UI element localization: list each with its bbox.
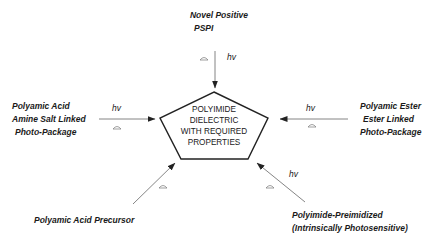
heat-delta-icon	[159, 186, 167, 189]
source-bottom-left-label: Polyamic Acid Precursor	[34, 214, 134, 227]
heat-delta-icon	[200, 58, 208, 61]
arrow-bottom-left	[133, 163, 175, 204]
hv-label-top: hv	[227, 52, 236, 62]
source-left-label: Polyamic Acid Amine Salt Linked Photo-Pa…	[12, 100, 86, 139]
hv-label-bottom-right: hv	[289, 169, 298, 179]
hv-label-left: hv	[112, 103, 121, 113]
heat-delta-icon	[113, 127, 121, 130]
center-label: POLYIMIDE DIELECTRIC WITH REQUIRED PROPE…	[164, 104, 264, 148]
source-right-label: Polyamic Ester Ester Linked Photo-Packag…	[360, 100, 421, 139]
heat-delta-icon	[308, 125, 316, 128]
source-top-label: Novel Positive PSPI	[184, 9, 254, 35]
heat-delta-icon	[266, 186, 274, 189]
hv-label-right: hv	[306, 103, 315, 113]
source-bottom-right-label: Polyimide-Preimidized (Intrinsically Pho…	[292, 209, 408, 235]
